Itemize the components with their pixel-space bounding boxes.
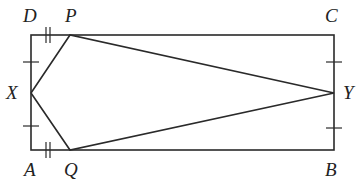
label-y: Y (343, 82, 356, 103)
geometry-diagram: D P C X Y A Q B (0, 0, 360, 184)
rectangle-abcd (31, 35, 334, 150)
label-b: B (325, 159, 337, 180)
label-a: A (22, 159, 36, 180)
label-x: X (5, 82, 19, 103)
label-q: Q (64, 159, 78, 180)
quadrilateral-xpyq (31, 35, 334, 150)
label-d: D (22, 5, 37, 26)
label-p: P (64, 5, 77, 26)
label-c: C (325, 5, 338, 26)
